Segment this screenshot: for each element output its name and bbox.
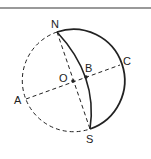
label-c: C (123, 55, 131, 67)
label-b: B (85, 62, 92, 74)
label-o: O (59, 72, 68, 84)
label-a: A (14, 94, 22, 106)
sphere-diagram: N S O A B C (0, 0, 151, 159)
sphere-outline-dashed (22, 32, 90, 132)
label-s: S (86, 133, 93, 145)
point-b (84, 75, 88, 79)
label-n: N (51, 18, 59, 30)
point-o (71, 79, 75, 83)
